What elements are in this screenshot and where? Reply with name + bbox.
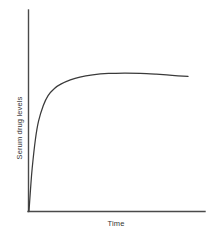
plot-area	[0, 0, 220, 240]
serum-concentration-curve	[29, 73, 188, 211]
chart-container: Time Serum drug levels	[0, 0, 220, 240]
y-axis-label-text: Serum drug levels	[15, 78, 24, 178]
x-axis-label: Time	[0, 219, 220, 228]
